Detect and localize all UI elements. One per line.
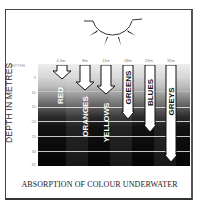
depth-tick-25: 25	[22, 134, 36, 139]
depth-label-reds: 4.5m	[51, 58, 71, 63]
depth-tick-5: 5	[22, 75, 36, 80]
depth-label-yellows: 11m	[96, 58, 116, 63]
y-axis-label: DEPTH IN METRES	[4, 63, 14, 143]
depth-label-oranges: 8m	[75, 58, 95, 63]
depth-tick-20: 20	[22, 119, 36, 124]
label-greens: GREENS	[124, 68, 133, 108]
depth-tick-30: 30	[22, 149, 36, 154]
label-oranges: ORANGES	[81, 95, 90, 139]
depth-tick-10: 10	[22, 90, 36, 95]
label-greys: GREYS	[167, 85, 176, 119]
depth-label-greens: 18m	[118, 58, 138, 63]
depth-tick-15: 15	[22, 104, 36, 109]
depth-label-blues: 23m	[139, 58, 159, 63]
label-yellows: YELLOWS	[102, 101, 111, 145]
depth-label-greys: 31m	[161, 58, 181, 63]
arrow-reds	[52, 65, 72, 81]
label-blues: BLUES	[146, 76, 155, 110]
figure-caption: ABSORPTION OF COLOUR UNDERWATER	[0, 180, 199, 189]
depth-tick-35: 35	[22, 162, 36, 167]
arrow-yellows	[96, 65, 116, 95]
arrow-oranges	[75, 65, 95, 91]
sun-icon	[0, 0, 199, 60]
label-reds: RED	[56, 81, 65, 111]
